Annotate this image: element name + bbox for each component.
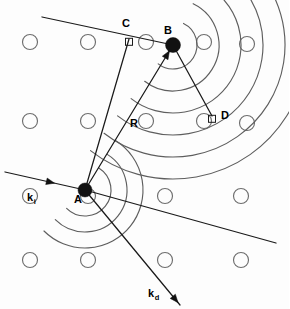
wavefront-arcs-A xyxy=(44,141,143,248)
label-layer: ABCDRkikd xyxy=(27,17,229,302)
lattice-circle xyxy=(240,116,255,131)
wavefront-arcs-B xyxy=(131,0,241,113)
lattice-circle xyxy=(158,253,173,268)
position-vector-R-arrowhead xyxy=(162,51,169,60)
lattice-circle xyxy=(23,253,38,268)
label-D: D xyxy=(221,109,229,121)
position-vector-R xyxy=(85,45,173,190)
lattice-circle xyxy=(234,189,249,204)
lattice-circle xyxy=(197,35,212,50)
scatterer-atom-B xyxy=(166,38,181,53)
label-kd: kd xyxy=(148,287,160,302)
ray-B-to-D xyxy=(173,45,212,116)
wavefront-arcs-B xyxy=(118,0,263,135)
diagram-canvas: ABCDRkikd xyxy=(0,0,289,309)
lattice-circle xyxy=(240,37,255,52)
diffracted-wavevector-kd xyxy=(85,190,180,305)
lattice-circle xyxy=(23,35,38,50)
lattice-circle xyxy=(139,35,154,50)
lattice-circle xyxy=(81,35,96,50)
label-B: B xyxy=(164,24,172,36)
lattice-circle xyxy=(158,189,173,204)
wavefront-arcs-B xyxy=(104,0,285,157)
lattice-circle xyxy=(81,114,96,129)
incident-wavevector-ki xyxy=(5,172,85,190)
label-C: C xyxy=(122,17,130,29)
diffracted-ray-through-D xyxy=(85,190,276,243)
label-A: A xyxy=(74,193,82,205)
lattice-circle xyxy=(234,253,249,268)
wavefront-arcs-B xyxy=(91,0,290,179)
label-R: R xyxy=(130,117,138,129)
incident-wavevector-ki-arrowhead xyxy=(46,178,55,185)
lattice-circle xyxy=(81,253,96,268)
scattering-diagram-figure: ABCDRkikd xyxy=(0,0,289,309)
incident-ray-upper xyxy=(42,17,173,45)
wavefront-arcs-B xyxy=(145,4,219,91)
lattice-circle xyxy=(23,114,38,129)
lattice-circle xyxy=(139,114,154,129)
